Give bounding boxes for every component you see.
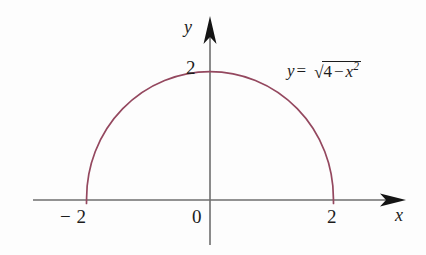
x-axis-label: x [395, 206, 403, 224]
equation-lhs: y [287, 62, 295, 79]
equation-radical: √4−x2 [313, 62, 361, 81]
equation-radicand: 4−x2 [322, 61, 360, 80]
x-tick-label-neg2: − 2 [60, 207, 86, 226]
y-axis-label: y [184, 18, 192, 36]
radicand-exponent: 2 [353, 60, 359, 73]
radicand-number: 4 [323, 62, 332, 81]
equation-equals-sign: = [297, 62, 307, 79]
y-tick-label-2: 2 [186, 58, 196, 77]
radicand-variable: x [346, 62, 354, 81]
semicircle-plot-figure: y x 2 − 2 0 2 y = √4−x2 [0, 0, 426, 255]
x-tick-label-2: 2 [327, 207, 337, 226]
curve-equation-label: y = √4−x2 [287, 62, 361, 81]
x-tick-label-0: 0 [192, 207, 202, 226]
radicand-minus-sign: − [334, 62, 344, 81]
